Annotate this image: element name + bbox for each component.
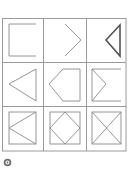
cell-5-pentagon-left bbox=[49, 69, 80, 101]
cell-1-square-open-right bbox=[9, 24, 36, 56]
gear-icon[interactable] bbox=[3, 158, 12, 167]
cell-2-chevron-right bbox=[65, 24, 81, 56]
cell-3-triangle-left-bold bbox=[106, 25, 120, 56]
cell-8-square bbox=[50, 112, 80, 144]
figure-matrix bbox=[0, 0, 129, 172]
cell-7-square bbox=[9, 112, 36, 144]
cell-4-triangle-left bbox=[9, 69, 36, 101]
cell-8-diamond bbox=[50, 112, 80, 144]
cell-6-inner-chevron bbox=[92, 69, 106, 101]
cell-7-left-triangle bbox=[9, 112, 36, 144]
